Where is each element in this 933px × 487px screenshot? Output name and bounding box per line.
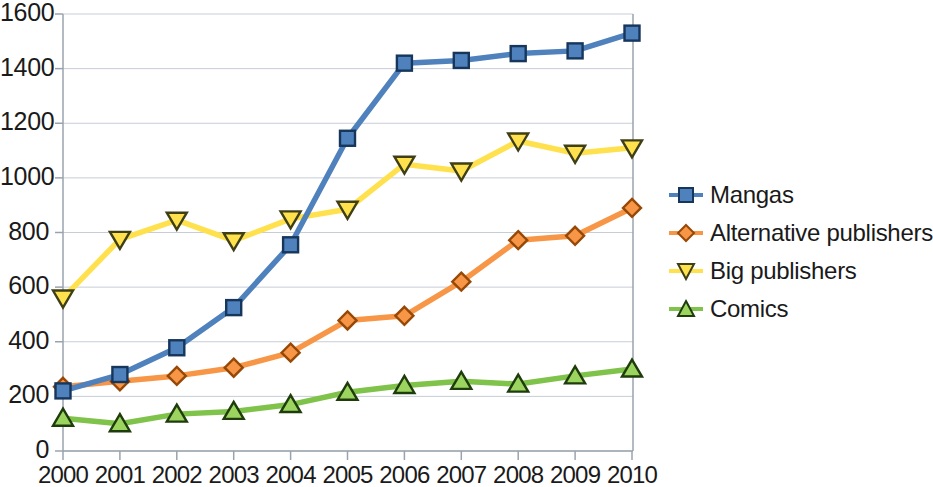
x-tick-label: 2010 [598,461,666,487]
chart-series-comics [53,360,642,432]
y-tick-label: 1200 [0,107,49,136]
y-tick-label: 1600 [0,0,49,27]
y-tick-label: 0 [0,435,49,464]
y-tick-label: 800 [0,217,49,246]
legend-diamond-marker-icon [668,222,704,244]
chart-series-big-publishers [53,134,642,308]
y-tick-label: 600 [0,271,49,300]
legend-item-comics: Comics [668,290,933,328]
legend-item-big-publishers: Big publishers [668,252,933,290]
legend-label-big-publishers: Big publishers [710,257,857,285]
chart-legend: Mangas Alternative publishers Big publis… [668,176,933,328]
y-tick-label: 1400 [0,53,49,82]
legend-item-alternative-publishers: Alternative publishers [668,214,933,252]
y-tick-label: 400 [0,326,49,355]
legend-triangle-down-marker-icon [668,260,704,282]
legend-square-marker-icon [668,184,704,206]
legend-label-mangas: Mangas [710,181,794,209]
legend-label-comics: Comics [710,295,788,323]
legend-label-alternative-publishers: Alternative publishers [710,219,933,247]
legend-triangle-up-marker-icon [668,298,704,320]
legend-item-mangas: Mangas [668,176,933,214]
x-axis-ticks [63,451,632,460]
y-tick-label: 1000 [0,162,49,191]
y-tick-label: 200 [0,380,49,409]
